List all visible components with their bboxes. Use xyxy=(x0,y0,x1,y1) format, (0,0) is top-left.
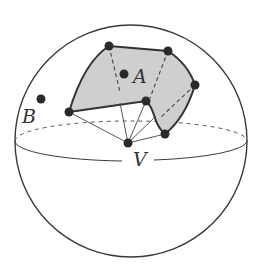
vertex-dot-p3 xyxy=(191,81,200,90)
vertex-dot-p6 xyxy=(65,108,74,117)
vertex-dot-p2 xyxy=(164,47,173,56)
sphere-diagram xyxy=(0,0,263,270)
ray-v-p4 xyxy=(128,134,165,143)
vertex-dot-p5 xyxy=(142,97,151,106)
ray-v-2 xyxy=(128,116,156,143)
equator-front-solid-right xyxy=(154,141,247,160)
vertex-dot-p4 xyxy=(161,130,170,139)
point-a-dot xyxy=(120,70,129,79)
ray-v-p5 xyxy=(128,101,146,143)
point-b-dot xyxy=(37,95,46,104)
point-v-dot xyxy=(124,139,133,148)
diagram-canvas: A B V xyxy=(0,0,263,270)
vertex-dot-p1 xyxy=(105,42,114,51)
label-a: A xyxy=(133,67,147,86)
equator-back-dashed xyxy=(15,121,247,141)
ray-v-p6 xyxy=(69,112,128,143)
label-b: B xyxy=(22,107,36,126)
label-v: V xyxy=(133,150,147,169)
equator-front-solid xyxy=(15,141,122,161)
ray-v-1 xyxy=(120,103,128,143)
